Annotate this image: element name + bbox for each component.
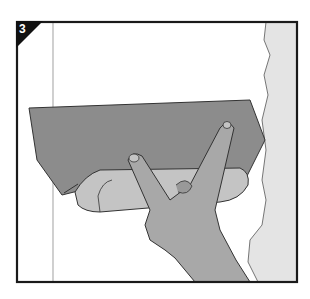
drywall-knife-illustration — [0, 0, 310, 299]
step-number: 3 — [19, 22, 26, 36]
illustration-panel: 3 — [0, 0, 310, 299]
